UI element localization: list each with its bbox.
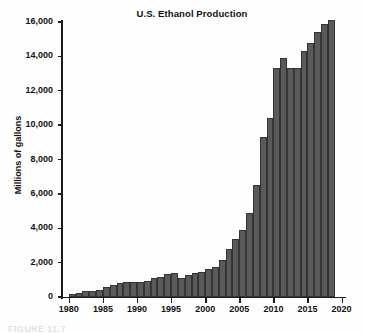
bar [89, 291, 96, 297]
bar [185, 275, 192, 297]
bar [307, 43, 314, 297]
bar [294, 68, 301, 297]
bar [110, 285, 117, 297]
bar [164, 274, 171, 297]
x-axis-tick [307, 298, 308, 303]
bar [212, 267, 219, 297]
bar [232, 239, 239, 297]
bar [117, 283, 124, 297]
x-axis-label: 1985 [93, 304, 113, 314]
bar [253, 185, 260, 297]
x-axis-tick [205, 298, 206, 303]
x-axis-label: 1995 [161, 304, 181, 314]
x-axis-label: 2000 [195, 304, 215, 314]
bar [192, 273, 199, 297]
bar [205, 269, 212, 297]
x-axis-tick [239, 298, 240, 303]
bar [239, 230, 246, 297]
bar [280, 58, 287, 297]
x-axis-label: 2005 [229, 304, 249, 314]
bar [123, 282, 130, 297]
x-axis-label: 1990 [127, 304, 147, 314]
bar [321, 24, 328, 297]
x-axis-tick [103, 298, 104, 303]
bar [328, 20, 335, 297]
bar [301, 51, 308, 297]
bar [226, 249, 233, 297]
bar [151, 278, 158, 297]
bar [314, 32, 321, 297]
bar [76, 293, 83, 297]
y-axis-label: 8,000 [0, 154, 53, 164]
y-axis-label: 0 [0, 291, 53, 301]
bar [144, 281, 151, 297]
bar [130, 282, 137, 297]
x-axis-tick [273, 298, 274, 303]
x-axis-label: 2020 [332, 304, 352, 314]
y-axis-label: 16,000 [0, 16, 53, 26]
x-axis-label: 1980 [59, 304, 79, 314]
bar-series [62, 22, 345, 297]
bar [267, 118, 274, 297]
x-axis-tick [171, 298, 172, 303]
bar [157, 277, 164, 297]
bar [103, 287, 110, 297]
bar [137, 282, 144, 297]
chart-title: U.S. Ethanol Production [112, 8, 272, 19]
x-axis-label: 2015 [297, 304, 317, 314]
y-axis-label: 4,000 [0, 222, 53, 232]
chart-figure: U.S. Ethanol Production Millions of gall… [0, 0, 365, 333]
bar [69, 294, 76, 297]
x-axis-tick [342, 298, 343, 303]
x-axis-tick [69, 298, 70, 303]
plot-area [62, 22, 345, 297]
bar [219, 260, 226, 297]
bar [178, 278, 185, 297]
y-axis-label: 12,000 [0, 85, 53, 95]
bar [171, 273, 178, 297]
y-axis-label: 2,000 [0, 257, 53, 267]
bar [82, 291, 89, 297]
x-axis-tick [137, 298, 138, 303]
y-axis-label: 14,000 [0, 50, 53, 60]
bar [96, 290, 103, 297]
bar [287, 68, 294, 297]
bar [273, 68, 280, 297]
y-axis-label: 6,000 [0, 188, 53, 198]
x-axis-label: 2010 [263, 304, 283, 314]
bar [246, 213, 253, 297]
bar [260, 137, 267, 297]
bar [198, 272, 205, 297]
figure-caption: FIGURE 11.7 [8, 324, 66, 333]
x-axis-ticks: 198019851990199520002005201020152020 [62, 298, 345, 322]
y-axis-label: 10,000 [0, 119, 53, 129]
